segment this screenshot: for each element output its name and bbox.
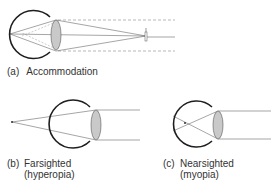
panel-label: Nearsighted (180, 158, 234, 169)
panel-tag: (b) (7, 158, 24, 169)
eyeball (174, 101, 212, 147)
object-icon (145, 32, 147, 41)
lens (51, 20, 61, 50)
label-accommodation: (a) Accommodation (7, 66, 98, 77)
panel-sublabel: (myopia) (163, 169, 234, 180)
panel-c-nearsighted (173, 101, 271, 147)
ray (10, 34, 56, 51)
lens (91, 110, 101, 140)
panel-tag: (a) (7, 66, 24, 77)
ray (10, 20, 56, 34)
eyeball (49, 100, 90, 148)
ray (56, 36, 146, 51)
ray (10, 34, 146, 36)
focus-point (11, 121, 13, 123)
ray (12, 110, 96, 122)
ray (56, 20, 146, 36)
focus-point (184, 122, 186, 124)
lens (213, 111, 223, 139)
ray (173, 111, 218, 131)
panel-tag: (c) (163, 158, 180, 169)
panel-a-accommodation (10, 11, 175, 59)
panel-label: Farsighted (24, 158, 71, 169)
label-farsighted: (b)Farsighted (hyperopia) (7, 158, 75, 180)
panel-b-farsighted (11, 100, 140, 148)
label-nearsighted: (c)Nearsighted (myopia) (163, 158, 234, 180)
panel-label: Accommodation (26, 66, 98, 77)
panel-sublabel: (hyperopia) (7, 169, 75, 180)
ray (173, 116, 218, 139)
